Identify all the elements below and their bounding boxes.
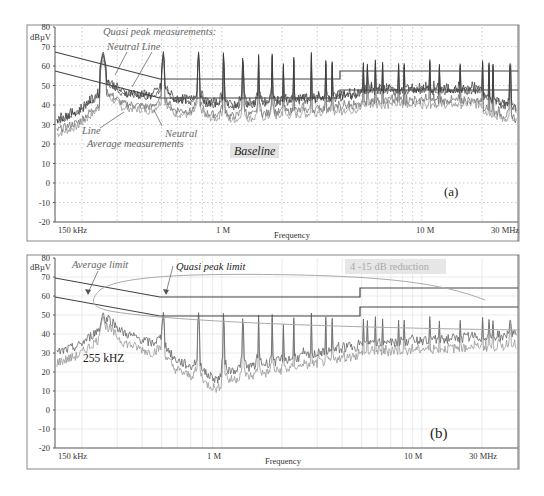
panel-b-x-tick-10m: 10 M xyxy=(404,451,423,461)
panel-b-x-tick-150k: 150 kHz xyxy=(58,451,87,461)
panel-b-x-tick-1m: 1 M xyxy=(207,451,221,461)
panel-b: 80706050403020100-10-20 dBµV 150 kHz 1 M… xyxy=(27,253,520,469)
panel-b-x-tick-30m: 30 MHz xyxy=(469,451,497,461)
panel-b-ann-avg-limit: Average limit xyxy=(71,259,129,270)
panel-b-label: (b) xyxy=(430,425,448,442)
panel-b-x-label: Frequency xyxy=(265,456,302,466)
y-tick-label: 30 xyxy=(42,120,51,130)
panel-b-y-unit: dBµV xyxy=(30,262,52,272)
panel-b-ann-255khz: 255 kHZ xyxy=(83,352,124,364)
y-tick-label: 0 xyxy=(46,405,50,415)
panel-a: 80706050403020100-10-20 dBµV 150 kHz 1 M… xyxy=(27,22,519,241)
y-tick-label: 70 xyxy=(42,42,51,52)
y-tick-label: -10 xyxy=(39,424,50,434)
panel-b-reduction-label: 4 -15 dB reduction xyxy=(350,261,430,272)
y-tick-label: -20 xyxy=(39,217,50,227)
y-tick-label: 0 xyxy=(46,178,50,188)
panel-a-ann-line: Line xyxy=(81,125,101,136)
panel-a-ann-neutral-line: Neutral Line xyxy=(106,41,161,52)
panel-a-baseline-label: Baseline xyxy=(234,144,276,158)
y-tick-label: 60 xyxy=(42,61,51,71)
panel-a-x-tick-10m: 10 M xyxy=(416,225,435,235)
panel-a-x-label: Frequency xyxy=(274,230,311,240)
panel-a-ann-qp: Quasi peak measurements: xyxy=(103,26,216,37)
panel-a-frame xyxy=(27,25,519,241)
y-tick-label: 20 xyxy=(42,367,51,377)
emi-figure: 80706050403020100-10-20 dBµV 150 kHz 1 M… xyxy=(0,0,544,496)
y-tick-label: 30 xyxy=(42,348,51,358)
y-tick-label: -20 xyxy=(39,443,50,453)
panel-a-y-unit: dBµV xyxy=(30,32,52,42)
y-tick-label: 60 xyxy=(42,291,51,301)
panel-a-label: (a) xyxy=(444,184,458,199)
y-tick-label: 70 xyxy=(42,272,51,282)
y-tick-label: 10 xyxy=(42,159,51,169)
panel-a-ann-avg: Average measurements xyxy=(86,138,184,149)
y-tick-label: 40 xyxy=(42,329,51,339)
y-tick-label: 20 xyxy=(42,139,51,149)
y-tick-label: 50 xyxy=(42,310,51,320)
panel-a-x-tick-30m: 30 MHz xyxy=(491,225,519,235)
y-tick-label: 80 xyxy=(42,22,51,32)
panel-b-ann-qp-limit: Quasi peak limit xyxy=(176,261,246,272)
panel-a-x-tick-150k: 150 kHz xyxy=(58,225,87,235)
y-tick-label: 10 xyxy=(42,386,51,396)
panel-a-x-tick-1m: 1 M xyxy=(216,225,230,235)
y-tick-label: 50 xyxy=(42,81,51,91)
y-tick-label: 40 xyxy=(42,100,51,110)
y-tick-label: -10 xyxy=(39,198,50,208)
